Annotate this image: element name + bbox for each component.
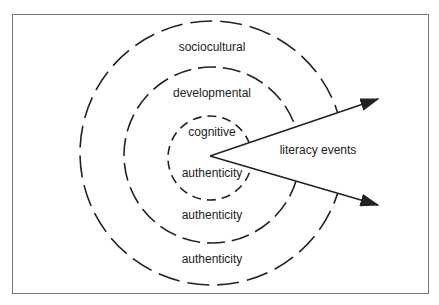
- label-cognitive-authenticity: authenticity: [182, 166, 243, 180]
- label-literacy-events: literacy events: [280, 143, 357, 157]
- diagram-canvas: sociocultural developmental cognitive au…: [0, 0, 439, 305]
- label-developmental: developmental: [173, 86, 251, 100]
- label-cognitive: cognitive: [188, 125, 236, 139]
- label-developmental-authenticity: authenticity: [182, 208, 243, 222]
- label-sociocultural-authenticity: authenticity: [182, 252, 243, 266]
- label-sociocultural: sociocultural: [179, 40, 246, 54]
